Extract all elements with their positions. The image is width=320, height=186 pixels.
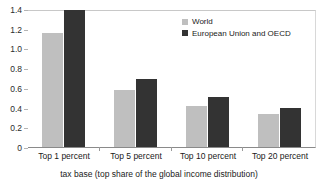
y-axis-tick-label: 0.8	[0, 65, 22, 74]
x-axis-tick-labels: Top 1 percentTop 5 percentTop 10 percent…	[28, 151, 316, 161]
y-axis-tick-mark	[24, 148, 28, 149]
y-axis-tick-label: 0.6	[0, 85, 22, 94]
y-axis-tick-mark	[24, 69, 28, 70]
y-axis-tick-label: 0.2	[0, 124, 22, 133]
bar-eu-oecd	[136, 79, 157, 147]
bar-world	[186, 106, 207, 147]
y-axis-tick-mark	[24, 30, 28, 31]
x-axis-tick-label: Top 5 percent	[100, 151, 172, 161]
bar-world	[114, 90, 135, 147]
y-axis-tick-label: 1.2	[0, 25, 22, 34]
eu-oecd-legend-swatch	[182, 30, 188, 36]
bar-eu-oecd	[64, 10, 85, 147]
y-axis: 00.20.40.60.81.01.21.4	[0, 0, 22, 186]
bar-eu-oecd	[208, 97, 229, 147]
y-axis-tick-label: 0.4	[0, 104, 22, 113]
legend-item-label: European Union and OECD	[192, 28, 291, 40]
world-legend-swatch	[182, 19, 188, 25]
y-axis-tick-label: 0	[0, 144, 22, 153]
bar-world	[42, 33, 63, 147]
bar-eu-oecd	[280, 108, 301, 147]
bar-group	[28, 11, 100, 147]
bar-chart: 00.20.40.60.81.01.21.4 WorldEuropean Uni…	[0, 0, 320, 186]
x-axis-title: tax base (top share of the global income…	[0, 169, 318, 179]
x-axis-tick-label: Top 20 percent	[244, 151, 316, 161]
y-axis-tick-mark	[24, 128, 28, 129]
x-axis-tick-label: Top 10 percent	[172, 151, 244, 161]
y-axis-tick-mark	[24, 10, 28, 11]
legend-item-label: World	[192, 16, 213, 28]
legend-item: World	[182, 16, 291, 28]
y-axis-tick-label: 1.4	[0, 6, 22, 15]
y-axis-tick-mark	[24, 49, 28, 50]
y-axis-tick-label: 1.0	[0, 45, 22, 54]
bar-group	[100, 11, 172, 147]
x-axis-tick-label: Top 1 percent	[28, 151, 100, 161]
legend-item: European Union and OECD	[182, 28, 291, 40]
chart-legend: WorldEuropean Union and OECD	[182, 16, 291, 39]
y-axis-tick-mark	[24, 109, 28, 110]
bar-world	[258, 114, 279, 147]
y-axis-tick-mark	[24, 89, 28, 90]
